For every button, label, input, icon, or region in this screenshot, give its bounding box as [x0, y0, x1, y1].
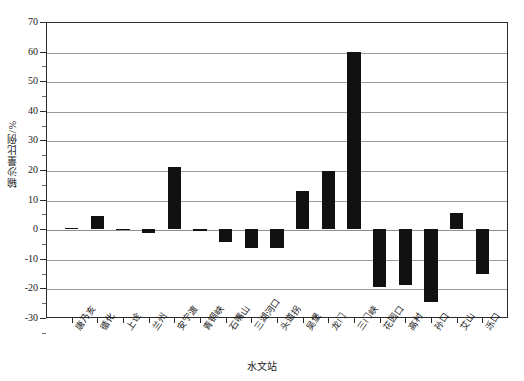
y-tick-label: 50 — [4, 76, 38, 86]
bar — [399, 229, 412, 285]
bar — [219, 229, 232, 241]
plot-area — [46, 22, 508, 318]
y-minor-tick — [42, 185, 46, 186]
y-tick-label: -30 — [4, 313, 38, 323]
y-tick-mark — [40, 200, 46, 201]
y-minor-tick — [42, 66, 46, 67]
bar — [270, 229, 283, 248]
y-minor-tick — [42, 244, 46, 245]
y-tick-label: -10 — [4, 254, 38, 264]
y-tick-label: 20 — [4, 165, 38, 175]
y-minor-tick — [42, 333, 46, 334]
y-tick-label: 40 — [4, 106, 38, 116]
y-gridline — [47, 260, 507, 261]
y-minor-tick — [42, 214, 46, 215]
bar — [476, 229, 489, 273]
bar — [193, 229, 206, 231]
bar — [65, 228, 78, 229]
y-tick-mark — [40, 318, 46, 319]
y-tick-mark — [40, 229, 46, 230]
bar — [450, 213, 463, 229]
y-tick-mark — [40, 288, 46, 289]
bar — [142, 229, 155, 233]
y-gridline — [47, 201, 507, 202]
y-tick-mark — [40, 111, 46, 112]
bar — [116, 229, 129, 230]
y-tick-label: 30 — [4, 135, 38, 145]
y-tick-label: 0 — [4, 224, 38, 234]
y-gridline — [47, 141, 507, 142]
y-minor-tick — [42, 303, 46, 304]
bar — [322, 171, 335, 229]
bar — [347, 52, 360, 229]
y-minor-tick — [42, 274, 46, 275]
y-tick-label: -20 — [4, 283, 38, 293]
y-gridline — [47, 112, 507, 113]
y-tick-mark — [40, 140, 46, 141]
y-tick-mark — [40, 81, 46, 82]
y-gridline — [47, 53, 507, 54]
y-gridline — [47, 171, 507, 172]
bar — [296, 191, 309, 229]
y-tick-label: 70 — [4, 17, 38, 27]
bar-chart: 输沙量比例/% 水文站 -30-20-10010203040506070唐乃亥循… — [0, 0, 524, 381]
y-minor-tick — [42, 126, 46, 127]
y-axis-title: 输沙量比例/% — [6, 120, 20, 188]
bar — [245, 229, 258, 248]
bar — [168, 167, 181, 229]
y-tick-label: 10 — [4, 195, 38, 205]
y-tick-mark — [40, 22, 46, 23]
y-tick-label: 60 — [4, 47, 38, 57]
y-minor-tick — [42, 155, 46, 156]
y-tick-mark — [40, 259, 46, 260]
x-axis-title: 水文站 — [0, 358, 524, 373]
y-tick-mark — [40, 170, 46, 171]
y-gridline — [47, 289, 507, 290]
bar — [373, 229, 386, 287]
y-tick-mark — [40, 52, 46, 53]
bar — [91, 216, 104, 229]
bar — [424, 229, 437, 302]
y-minor-tick — [42, 96, 46, 97]
y-gridline — [47, 82, 507, 83]
